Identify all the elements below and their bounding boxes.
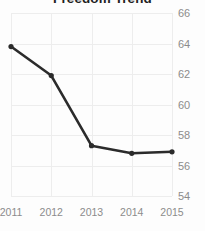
y-axis-tick-label: 60 (178, 99, 203, 111)
gridline-horizontal (11, 196, 172, 197)
line-series-path (11, 47, 172, 154)
x-axis-tick-label: 2012 (40, 206, 63, 218)
x-axis-tick-label: 2011 (0, 206, 22, 218)
x-axis-tick-label: 2013 (80, 206, 103, 218)
data-point-marker (129, 151, 134, 156)
chart-title: Freedom Trend (0, 0, 205, 6)
x-axis-tick-label: 2014 (120, 206, 143, 218)
y-axis-tick-label: 62 (178, 68, 203, 80)
data-point-marker (49, 73, 54, 78)
plot-area (11, 13, 172, 196)
y-axis-tick-label: 54 (178, 190, 203, 202)
y-axis-tick-label: 56 (178, 160, 203, 172)
x-axis-tick-label: 2015 (160, 206, 183, 218)
line-series-svg (11, 13, 172, 196)
chart-container: Freedom Trend 66646260585654 20112012201… (0, 0, 205, 231)
y-axis-tick-label: 66 (178, 7, 203, 19)
gridline-vertical (172, 13, 173, 196)
data-point-markers (8, 44, 174, 156)
data-point-marker (169, 149, 174, 154)
y-axis-tick-label: 58 (178, 129, 203, 141)
y-axis-tick-label: 64 (178, 38, 203, 50)
data-point-marker (8, 44, 13, 49)
data-point-marker (89, 143, 94, 148)
